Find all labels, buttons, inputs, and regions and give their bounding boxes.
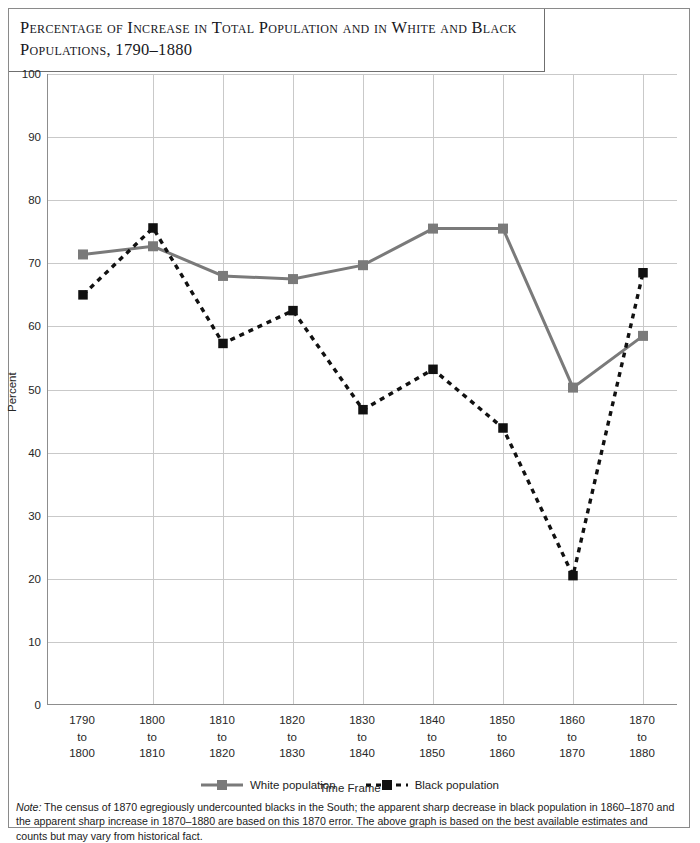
x-tick-line: to — [187, 729, 257, 746]
x-tick-line: to — [537, 729, 607, 746]
footnote-label: Note: — [16, 801, 41, 813]
x-tick-line: to — [47, 729, 117, 746]
y-tick-label-90: 90 — [1, 131, 41, 143]
x-tick-line: to — [257, 729, 327, 746]
x-tick-line: 1840 — [397, 712, 467, 729]
y-tick-label-100: 100 — [1, 68, 41, 80]
y-tick-label-10: 10 — [1, 636, 41, 648]
x-tick-label-3: 1820to1830 — [257, 712, 327, 762]
y-tick-label-0: 0 — [1, 699, 41, 711]
legend-label-0: White population — [250, 779, 336, 791]
x-tick-line: 1870 — [607, 712, 677, 729]
footnote: Note: The census of 1870 egregiously und… — [16, 800, 680, 843]
x-tick-line: 1860 — [467, 745, 537, 762]
x-tick-line: 1810 — [117, 745, 187, 762]
y-tick-label-20: 20 — [1, 573, 41, 585]
legend-label-1: Black population — [415, 779, 499, 791]
x-tick-line: to — [607, 729, 677, 746]
x-tick-line: to — [397, 729, 467, 746]
x-tick-line: 1870 — [537, 745, 607, 762]
page-title: Percentage of Increase in Total Populati… — [20, 17, 534, 62]
x-tick-line: 1800 — [117, 712, 187, 729]
x-tick-label-4: 1830to1840 — [327, 712, 397, 762]
x-tick-line: 1810 — [187, 712, 257, 729]
y-tick-label-80: 80 — [1, 194, 41, 206]
x-tick-label-6: 1850to1860 — [467, 712, 537, 762]
x-tick-line: 1800 — [47, 745, 117, 762]
y-tick-label-40: 40 — [1, 447, 41, 459]
x-tick-line: 1880 — [607, 745, 677, 762]
y-tick-label-60: 60 — [1, 320, 41, 332]
x-tick-line: 1840 — [327, 745, 397, 762]
x-tick-label-8: 1870to1880 — [607, 712, 677, 762]
y-axis-ticks: 0102030405060708090100 — [0, 60, 700, 772]
x-tick-line: 1860 — [537, 712, 607, 729]
x-tick-line: 1790 — [47, 712, 117, 729]
x-tick-label-1: 1800to1810 — [117, 712, 187, 762]
chart-area: 0102030405060708090100 Percent 1790to180… — [0, 60, 700, 772]
x-tick-line: to — [467, 729, 537, 746]
y-tick-label-30: 30 — [1, 510, 41, 522]
x-tick-line: 1820 — [187, 745, 257, 762]
x-tick-label-0: 1790to1800 — [47, 712, 117, 762]
legend-swatch-0 — [201, 778, 243, 792]
x-tick-label-2: 1810to1820 — [187, 712, 257, 762]
legend-swatch-1 — [366, 778, 408, 792]
x-tick-line: 1830 — [257, 745, 327, 762]
x-tick-line: 1850 — [467, 712, 537, 729]
legend-item-0[interactable]: White population — [201, 778, 336, 792]
x-tick-line: 1830 — [327, 712, 397, 729]
chart-legend: White populationBlack population — [0, 778, 700, 792]
x-tick-line: to — [327, 729, 397, 746]
legend-item-1[interactable]: Black population — [366, 778, 499, 792]
y-tick-label-70: 70 — [1, 257, 41, 269]
x-tick-line: 1820 — [257, 712, 327, 729]
x-tick-label-5: 1840to1850 — [397, 712, 467, 762]
footnote-text: The census of 1870 egregiously undercoun… — [16, 801, 674, 842]
x-tick-line: to — [117, 729, 187, 746]
y-axis-label: Percent — [6, 372, 18, 412]
x-tick-label-7: 1860to1870 — [537, 712, 607, 762]
x-tick-line: 1850 — [397, 745, 467, 762]
